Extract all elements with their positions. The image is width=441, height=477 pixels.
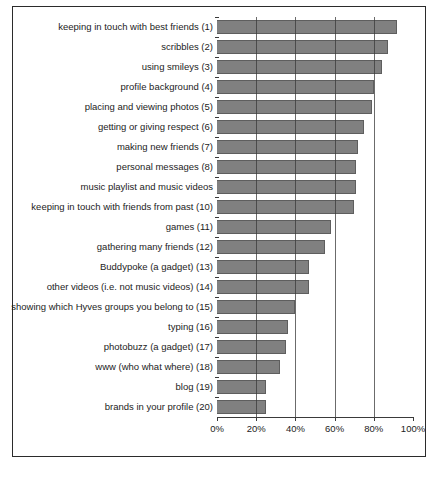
bar-track [217,100,413,114]
x-axis-tick-label: 40% [275,423,315,434]
bar-track [217,380,413,394]
bar [217,400,266,414]
bar-row: gathering many friends (12) [13,237,425,257]
bar-row: showing which Hyves groups you belong to… [13,297,425,317]
y-axis-tick [215,237,219,238]
x-axis-tick-label: 20% [236,423,276,434]
bar-category-label: music playlist and music videos [80,177,213,197]
bar-chart-plot-area: keeping in touch with best friends (1)sc… [13,7,425,456]
bar-row: keeping in touch with friends from past … [13,197,425,217]
bar-row: Buddypoke (a gadget) (13) [13,257,425,277]
bar-track [217,240,413,254]
bar-category-label: showing which Hyves groups you belong to… [11,297,213,317]
y-axis-tick [215,397,219,398]
bar-category-label: www (who what where) (18) [95,357,213,377]
gridline [335,17,336,417]
bar-track [217,140,413,154]
bar-row: keeping in touch with best friends (1) [13,17,425,37]
bar-category-label: scribbles (2) [161,37,213,57]
bar [217,20,397,34]
x-axis-tick-label: 80% [354,423,394,434]
bar-track [217,280,413,294]
bar [217,140,358,154]
bar-row: typing (16) [13,317,425,337]
y-axis-tick [215,177,219,178]
bar-category-label: placing and viewing photos (5) [85,97,213,117]
bar-category-label: keeping in touch with best friends (1) [58,17,213,37]
bar-category-label: getting or giving respect (6) [98,117,213,137]
y-axis-tick [215,57,219,58]
bar-row: other videos (i.e. not music videos) (14… [13,277,425,297]
y-axis-tick [215,317,219,318]
y-axis-tick [215,17,219,18]
bar-track [217,300,413,314]
bar-track [217,60,413,74]
bar-track [217,340,413,354]
y-axis-tick [215,157,219,158]
bar-category-label: profile background (4) [121,77,213,97]
bar-track [217,180,413,194]
bar-track [217,360,413,374]
bar-row: scribbles (2) [13,37,425,57]
bar [217,60,382,74]
bar-category-label: gathering many friends (12) [97,237,213,257]
y-axis-tick [215,37,219,38]
y-axis-tick [215,297,219,298]
x-axis-tick [335,417,336,421]
bar-row: personal messages (8) [13,157,425,177]
x-axis-line [217,417,413,418]
chart-frame: keeping in touch with best friends (1)sc… [12,6,426,457]
bar-rows-container: keeping in touch with best friends (1)sc… [13,17,425,417]
bar-track [217,120,413,134]
gridline [295,17,296,417]
bar-row: making new friends (7) [13,137,425,157]
x-axis-tick-label: 0% [197,423,237,434]
bar [217,360,280,374]
bar-row: profile background (4) [13,77,425,97]
y-axis-tick [215,77,219,78]
y-axis-tick [215,197,219,198]
bar-category-label: other videos (i.e. not music videos) (14… [47,277,213,297]
x-axis-tick [256,417,257,421]
y-axis-tick [215,357,219,358]
bar-track [217,260,413,274]
bar-row: photobuzz (a gadget) (17) [13,337,425,357]
x-axis-tick [217,417,218,421]
bar-row: brands in your profile (20) [13,397,425,417]
x-axis-tick [413,417,414,421]
x-axis-tick [374,417,375,421]
y-axis-tick [215,217,219,218]
x-axis-tick-label: 60% [315,423,355,434]
bar [217,380,266,394]
bar-track [217,160,413,174]
y-axis-tick [215,117,219,118]
bar-track [217,220,413,234]
bar-row: getting or giving respect (6) [13,117,425,137]
bar [217,40,388,54]
bar-category-label: brands in your profile (20) [105,397,213,417]
bar-track [217,20,413,34]
bar-category-label: Buddypoke (a gadget) (13) [100,257,213,277]
y-axis-tick [215,377,219,378]
bar-category-label: using smileys (3) [142,57,213,77]
y-axis-tick [215,97,219,98]
bar [217,340,286,354]
gridline [374,17,375,417]
bar-category-label: making new friends (7) [117,137,213,157]
bar-category-label: keeping in touch with friends from past … [31,197,213,217]
gridline [256,17,257,417]
x-axis-tick [295,417,296,421]
bar-category-label: typing (16) [168,317,213,337]
bar-row: www (who what where) (18) [13,357,425,377]
bar-category-label: personal messages (8) [116,157,213,177]
bar-track [217,40,413,54]
bar-row: blog (19) [13,377,425,397]
bar-row: using smileys (3) [13,57,425,77]
bar-track [217,80,413,94]
y-axis-tick [215,277,219,278]
bar-row: games (11) [13,217,425,237]
y-axis-tick [215,137,219,138]
bar-row: placing and viewing photos (5) [13,97,425,117]
bar [217,320,288,334]
x-axis-tick-label: 100% [393,423,433,434]
